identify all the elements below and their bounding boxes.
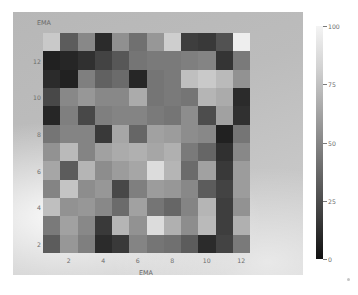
heatmap-cell: [147, 106, 164, 124]
heatmap-cell: [233, 70, 250, 88]
heatmap-cell: [233, 51, 250, 69]
heatmap-cell: [233, 161, 250, 179]
heatmap-cell: [43, 180, 60, 198]
heatmap-cell: [129, 216, 146, 234]
heatmap-cell: [198, 106, 215, 124]
heatmap-cell: [198, 235, 215, 253]
heatmap-cell: [78, 143, 95, 161]
x-axis-title: EMA: [139, 269, 153, 277]
heatmap-cell: [43, 106, 60, 124]
heatmap-cell: [216, 88, 233, 106]
heatmap-cell: [164, 106, 181, 124]
heatmap-cell: [216, 161, 233, 179]
colorbar-tick-mark: [323, 26, 327, 27]
heatmap-cell: [43, 216, 60, 234]
heatmap-cell: [60, 88, 77, 106]
heatmap-cell: [112, 88, 129, 106]
heatmap-cell: [112, 51, 129, 69]
heatmap-cell: [95, 161, 112, 179]
heatmap-cell: [95, 125, 112, 143]
heatmap-cell: [60, 33, 77, 51]
heatmap-cell: [198, 70, 215, 88]
heatmap-cell: [147, 51, 164, 69]
heatmap-cell: [129, 125, 146, 143]
heatmap-cell: [43, 143, 60, 161]
heatmap-cell: [60, 106, 77, 124]
heatmap-cell: [198, 180, 215, 198]
colorbar-tick-label: 50: [328, 139, 336, 146]
heatmap-cell: [198, 33, 215, 51]
colorbar-tick-mark: [323, 259, 327, 260]
heatmap-cell: [78, 198, 95, 216]
heatmap-cell: [112, 106, 129, 124]
heatmap-cell: [164, 180, 181, 198]
x-tick-label: 4: [101, 257, 105, 264]
heatmap-cell: [43, 125, 60, 143]
heatmap-cell: [147, 88, 164, 106]
heatmap-cell: [43, 70, 60, 88]
heatmap-cell: [43, 88, 60, 106]
heatmap-cell: [147, 125, 164, 143]
heatmap-cell: [216, 143, 233, 161]
heatmap-cell: [233, 125, 250, 143]
heatmap-cell: [181, 198, 198, 216]
heatmap-cell: [78, 33, 95, 51]
heatmap-cell: [129, 198, 146, 216]
colorbar-tick-label: 25: [328, 197, 336, 204]
heatmap-cell: [164, 88, 181, 106]
heatmap-cell: [198, 51, 215, 69]
heatmap-cell: [95, 180, 112, 198]
heatmap-cell: [181, 33, 198, 51]
heatmap-grid: [43, 33, 250, 253]
heatmap-cell: [147, 180, 164, 198]
heatmap-cell: [95, 70, 112, 88]
heatmap-cell: [181, 143, 198, 161]
heatmap-cell: [181, 106, 198, 124]
heatmap-cell: [181, 125, 198, 143]
heatmap-cell: [78, 70, 95, 88]
heatmap-cell: [60, 70, 77, 88]
heatmap-cell: [95, 235, 112, 253]
heatmap-cell: [60, 198, 77, 216]
x-tick-label: 12: [237, 257, 245, 264]
heatmap-cell: [78, 125, 95, 143]
heatmap-cell: [198, 125, 215, 143]
y-tick-label: 10: [30, 94, 41, 101]
heatmap-cell: [216, 125, 233, 143]
heatmap-cell: [164, 235, 181, 253]
x-tick-label: 8: [170, 257, 174, 264]
heatmap-cell: [112, 143, 129, 161]
heatmap-cell: [129, 88, 146, 106]
heatmap-cell: [216, 33, 233, 51]
heatmap-cell: [164, 216, 181, 234]
heatmap-cell: [112, 180, 129, 198]
y-axis-title: EMA: [37, 19, 51, 27]
heatmap-cell: [43, 198, 60, 216]
colorbar-tick-label: 100: [328, 23, 340, 30]
figure-canvas: EMA 24681012 12108642 EMA 1007550250: [0, 0, 358, 295]
heatmap-cell: [147, 161, 164, 179]
heatmap-cell: [233, 143, 250, 161]
heatmap-cell: [95, 88, 112, 106]
heatmap-cell: [147, 143, 164, 161]
heatmap-cell: [164, 198, 181, 216]
heatmap-cell: [147, 216, 164, 234]
heatmap-cell: [112, 216, 129, 234]
heatmap-cell: [216, 216, 233, 234]
heatmap-cell: [60, 161, 77, 179]
heatmap-cell: [216, 51, 233, 69]
heatmap-cell: [129, 70, 146, 88]
heatmap-cell: [181, 88, 198, 106]
heatmap-cell: [181, 216, 198, 234]
heatmap-cell: [129, 33, 146, 51]
y-tick-label: 12: [30, 57, 41, 64]
colorbar-tick-label: 75: [328, 81, 336, 88]
heatmap-cell: [95, 33, 112, 51]
heatmap-cell: [198, 88, 215, 106]
heatmap-cell: [147, 198, 164, 216]
heatmap-cell: [60, 143, 77, 161]
colorbar: 1007550250: [316, 26, 323, 259]
heatmap-cell: [233, 33, 250, 51]
heatmap-cell: [78, 235, 95, 253]
heatmap-cell: [60, 235, 77, 253]
